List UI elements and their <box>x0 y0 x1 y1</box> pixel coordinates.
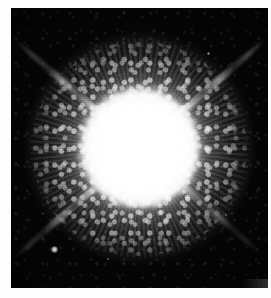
astronomical-plate <box>11 8 268 288</box>
image-canvas <box>0 0 271 298</box>
scan-artifact <box>242 279 268 288</box>
primary-star-core <box>81 89 199 207</box>
field-star-2 <box>75 68 77 70</box>
field-star-3 <box>225 214 227 216</box>
companion-star <box>51 246 58 253</box>
field-star-4 <box>107 258 109 260</box>
field-star-1 <box>207 52 210 55</box>
